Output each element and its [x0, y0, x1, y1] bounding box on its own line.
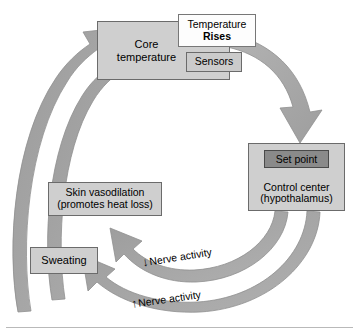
node-skin-vasodilation: Skin vasodilation (promotes heat loss): [48, 182, 162, 216]
control-center-label-line2: (hypothalamus): [260, 193, 332, 205]
node-sensors: Sensors: [186, 52, 242, 72]
temperature-rises-label-line1: Temperature: [188, 19, 247, 31]
temperature-rises-label-line2: Rises: [203, 31, 231, 43]
node-sweating: Sweating: [30, 247, 98, 274]
node-temperature-rises: Temperature Rises: [178, 14, 256, 47]
sweating-label: Sweating: [41, 254, 86, 266]
skin-vasodilation-label-line2: (promotes heat loss): [57, 199, 153, 211]
thermoregulation-diagram: Core temperature Temperature Rises Senso…: [0, 0, 359, 336]
set-point-label: Set point: [276, 153, 317, 165]
arrow-core-to-control-center: [227, 34, 322, 143]
bottom-divider: [6, 327, 353, 328]
core-temperature-label-line1: Core: [135, 38, 159, 50]
node-set-point: Set point: [264, 150, 329, 168]
sensors-label: Sensors: [195, 56, 234, 68]
core-temperature-label-line2: temperature: [117, 51, 176, 63]
